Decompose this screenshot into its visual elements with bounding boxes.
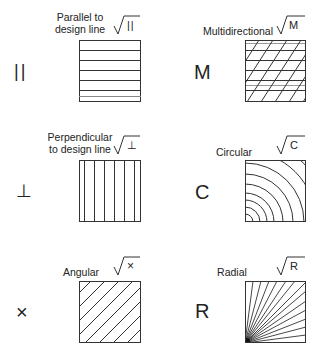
surface-root-icon: ×	[112, 255, 142, 277]
perpendicular-symbol: ⊥	[16, 182, 32, 200]
multidirectional-label: Multidirectional	[198, 25, 278, 37]
radial-lines-pattern	[245, 281, 306, 343]
perpendicular-label: Perpendicular to design line	[44, 131, 116, 155]
radial-symbol: R	[195, 301, 209, 321]
multidirectional-symbol: M	[194, 62, 211, 82]
surface-root-icon: ||	[112, 14, 142, 36]
surface-root-icon: C	[275, 134, 307, 156]
circular-symbol: C	[195, 182, 209, 202]
diagonal-lines-pattern	[79, 281, 141, 343]
concentric-arcs-pattern	[245, 160, 306, 222]
parallel-symbol: ||	[14, 62, 27, 80]
angular-label: Angular	[60, 266, 102, 278]
cross-hatch-pattern	[245, 40, 306, 102]
surface-root-icon: M	[275, 14, 307, 36]
parallel-label: Parallel to design line	[52, 11, 108, 35]
horizontal-lines-pattern	[79, 40, 141, 102]
angular-symbol: ×	[16, 302, 28, 322]
vertical-lines-pattern	[79, 160, 141, 222]
circular-label: Circular	[210, 146, 258, 158]
radial-label: Radial	[214, 266, 250, 278]
surface-root-icon: R	[275, 255, 307, 277]
surface-root-icon: ⊥	[112, 134, 142, 156]
